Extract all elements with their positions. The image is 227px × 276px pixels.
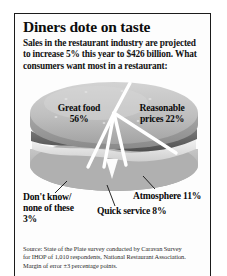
slice-label-dont-know-value: 3% (23, 213, 37, 224)
slice-label-dont-know-line1: Don't know/ (23, 191, 71, 202)
source-note: Source: State of the Plate survey conduc… (23, 245, 202, 270)
pie-chart: Great food 56% Reasonable prices 22% Don… (15, 75, 211, 223)
source-line-1: Source: State of the Plate survey conduc… (23, 245, 202, 253)
infographic-panel: Diners dote on taste Sales in the restau… (14, 13, 211, 276)
slice-label-great-food-name: Great food (58, 102, 100, 113)
header-block: Diners dote on taste Sales in the restau… (15, 14, 210, 73)
source-line-2: for IHOP of 1,010 respondents, National … (23, 253, 202, 261)
slice-label-great-food: Great food 56% (39, 103, 119, 124)
slice-label-reasonable-prices: Reasonable prices 22% (123, 103, 201, 124)
slice-label-reasonable-prices-name: Reasonable (140, 102, 185, 113)
slice-label-reasonable-prices-value: prices 22% (140, 113, 184, 124)
deck-text: Sales in the restaurant industry are pro… (23, 38, 203, 73)
source-line-3: Margin of error ±3 percentage points. (23, 262, 202, 270)
slice-label-dont-know: Don't know/ none of these 3% (23, 191, 97, 225)
page-title: Diners dote on taste (23, 19, 203, 36)
slice-label-quick-service: Quick service 8% (97, 206, 177, 217)
leader-quickservice (107, 185, 115, 206)
leader-atmosphere (143, 176, 155, 189)
slice-label-great-food-value: 56% (70, 113, 89, 124)
slice-label-dont-know-line2: none of these (23, 202, 74, 213)
slice-label-atmosphere: Atmosphere 11% (133, 191, 211, 202)
